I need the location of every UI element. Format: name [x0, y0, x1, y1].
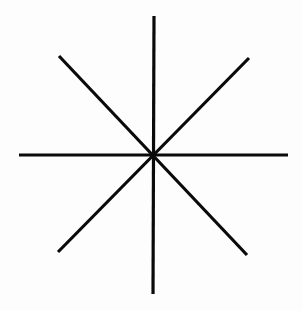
asterisk-star-icon	[0, 0, 303, 311]
figure-canvas	[0, 0, 303, 311]
